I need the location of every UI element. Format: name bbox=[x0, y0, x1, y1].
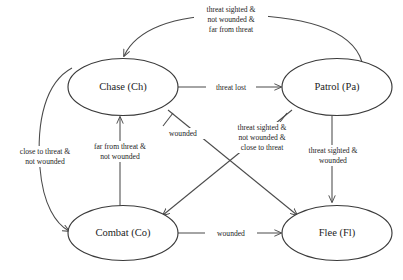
fsm-canvas: Chase (Ch) Patrol (Pa) Combat (Co) Flee … bbox=[0, 0, 403, 280]
edge-label-line: wounded bbox=[319, 156, 347, 165]
node-chase[interactable]: Chase (Ch) bbox=[68, 59, 178, 116]
edge-label-line: threat sighted & bbox=[309, 146, 358, 155]
node-combat-label: Combat (Co) bbox=[95, 227, 151, 239]
node-combat[interactable]: Combat (Co) bbox=[68, 206, 178, 261]
edge-label-chase-to-combat: close to threat & not wounded bbox=[8, 146, 83, 167]
edge-label-line: threat sighted & bbox=[238, 123, 287, 132]
edge-label-line: threat lost bbox=[216, 83, 247, 92]
edge-label-line: not wounded & bbox=[207, 15, 254, 24]
node-flee[interactable]: Flee (Fl) bbox=[282, 206, 392, 261]
state-diagram: Chase (Ch) Patrol (Pa) Combat (Co) Flee … bbox=[0, 0, 403, 280]
edge-label-line: close to threat bbox=[241, 143, 284, 152]
edge-label-line: threat sighted & bbox=[207, 5, 256, 14]
node-patrol-label: Patrol (Pa) bbox=[314, 81, 360, 93]
edge-label-line: far from threat bbox=[209, 25, 254, 34]
edge-label-patrol-to-chase: threat sighted & not wounded & far from … bbox=[194, 4, 268, 35]
edge-label-line: wounded bbox=[217, 229, 245, 238]
edge-label-line: not wounded bbox=[25, 157, 65, 166]
node-patrol[interactable]: Patrol (Pa) bbox=[282, 59, 392, 116]
edge-label-combat-to-flee: wounded bbox=[205, 228, 257, 239]
leader-line-wounded-chase-flee bbox=[163, 113, 173, 126]
edge-label-chase-to-patrol: threat lost bbox=[206, 82, 256, 93]
edge-label-chase-to-flee: wounded bbox=[157, 128, 209, 139]
edge-label-combat-to-chase: far from threat & not wounded bbox=[83, 141, 158, 162]
edge-label-line: far from threat & bbox=[94, 142, 146, 151]
edge-label-line: close to threat & bbox=[20, 147, 70, 156]
node-chase-label: Chase (Ch) bbox=[99, 81, 147, 93]
edge-label-line: wounded bbox=[169, 129, 197, 138]
node-flee-label: Flee (Fl) bbox=[319, 227, 356, 239]
edge-label-line: not wounded & bbox=[238, 133, 285, 142]
edge-label-line: not wounded bbox=[100, 152, 140, 161]
edge-label-patrol-to-combat: threat sighted & not wounded & close to … bbox=[225, 122, 299, 153]
edge-label-patrol-to-flee: threat sighted & wounded bbox=[296, 145, 370, 166]
